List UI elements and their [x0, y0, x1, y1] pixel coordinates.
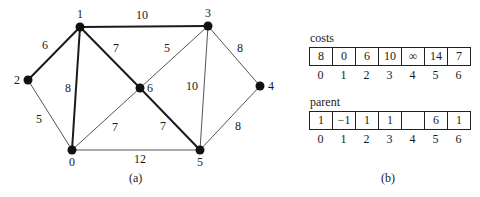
parent-indices: 0 1 2 3 4 5 6 — [309, 132, 470, 147]
costs-cell-4: ∞ — [402, 48, 425, 65]
costs-cell-0: 8 — [310, 48, 333, 65]
costs-index-0: 0 — [309, 68, 332, 83]
node-1 — [76, 23, 85, 32]
edge-1-2 — [28, 27, 80, 80]
costs-index-3: 3 — [378, 68, 401, 83]
edge-6-5 — [140, 88, 200, 150]
parent-index-6: 6 — [447, 132, 470, 147]
node-label-1: 1 — [77, 7, 83, 21]
node-label-4: 4 — [268, 79, 274, 93]
edge-0-6 — [72, 88, 140, 150]
edge-1-3 — [80, 26, 208, 27]
node-3 — [204, 22, 213, 31]
parent-index-4: 4 — [401, 132, 424, 147]
node-label-5: 5 — [197, 155, 203, 169]
parent-cell-1: −1 — [333, 112, 356, 129]
parent-index-3: 3 — [378, 132, 401, 147]
parent-index-0: 0 — [309, 132, 332, 147]
node-label-3: 3 — [205, 6, 211, 20]
edge-weight-0-6: 7 — [112, 120, 118, 134]
node-0 — [68, 146, 77, 155]
costs-cell-2: 6 — [356, 48, 379, 65]
parent-index-5: 5 — [424, 132, 447, 147]
costs-indices: 0 1 2 3 4 5 6 — [309, 68, 470, 83]
edge-weight-6-3: 5 — [164, 41, 170, 55]
edge-weight-3-5: 10 — [186, 79, 198, 93]
node-label-0: 0 — [69, 155, 75, 169]
edge-3-4 — [208, 26, 260, 86]
costs-index-2: 2 — [355, 68, 378, 83]
node-label-2: 2 — [14, 73, 20, 87]
parent-cell-4 — [402, 112, 425, 129]
costs-cell-5: 14 — [425, 48, 448, 65]
parent-label: parent — [310, 95, 340, 110]
costs-cell-6: 7 — [448, 48, 470, 65]
parent-cell-0: 1 — [310, 112, 333, 129]
costs-array: 8 0 6 10 ∞ 14 7 — [309, 47, 471, 66]
edge-weight-0-5: 12 — [134, 152, 146, 166]
node-5 — [196, 146, 205, 155]
edge-4-5 — [200, 86, 260, 150]
edge-1-0 — [72, 27, 80, 150]
parent-array: 1 −1 1 1 6 1 — [309, 111, 471, 130]
edge-weight-6-5: 7 — [160, 119, 166, 133]
edge-weight-1-0: 8 — [65, 81, 71, 95]
node-label-6: 6 — [147, 81, 153, 95]
node-6 — [136, 84, 145, 93]
edge-weight-1-6: 7 — [113, 41, 119, 55]
edge-3-5 — [200, 26, 208, 150]
costs-index-6: 6 — [447, 68, 470, 83]
costs-cell-1: 0 — [333, 48, 356, 65]
parent-cell-2: 1 — [356, 112, 379, 129]
parent-index-2: 2 — [355, 132, 378, 147]
caption-b: (b) — [381, 171, 395, 186]
edge-weight-3-4: 8 — [237, 41, 243, 55]
costs-cell-3: 10 — [379, 48, 402, 65]
edge-weight-2-0: 5 — [36, 112, 42, 126]
caption-a: (a) — [129, 171, 142, 186]
parent-cell-5: 6 — [425, 112, 448, 129]
parent-index-1: 1 — [332, 132, 355, 147]
edge-weight-1-3: 10 — [136, 8, 148, 22]
node-4 — [256, 82, 265, 91]
costs-index-1: 1 — [332, 68, 355, 83]
node-2 — [24, 76, 33, 85]
edge-1-6 — [80, 27, 140, 88]
weighted-graph: 610877571251088 0123456 — [0, 0, 300, 197]
edge-weight-4-5: 8 — [235, 119, 241, 133]
parent-cell-6: 1 — [448, 112, 470, 129]
costs-label: costs — [310, 31, 334, 46]
costs-index-5: 5 — [424, 68, 447, 83]
edge-weight-1-2: 6 — [42, 38, 48, 52]
parent-cell-3: 1 — [379, 112, 402, 129]
costs-index-4: 4 — [401, 68, 424, 83]
